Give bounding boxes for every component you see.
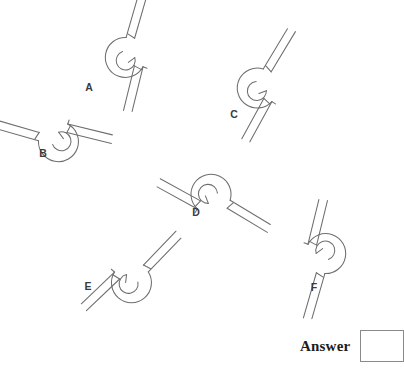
shape-c-stroke-3 (259, 91, 267, 94)
shape-a-stroke-5 (118, 0, 165, 38)
shape-c[interactable] (212, 26, 326, 144)
shape-c-stroke-1 (272, 101, 276, 105)
shape-b-stroke-0 (35, 120, 86, 169)
shape-b-stroke-3 (59, 132, 64, 139)
answer-row: Answer (300, 330, 404, 362)
shape-label-d: D (192, 206, 200, 218)
shape-label-a: A (85, 81, 93, 93)
shape-e[interactable] (81, 224, 182, 319)
shape-a-stroke-2 (112, 48, 138, 74)
shape-f-stroke-1 (304, 241, 308, 245)
shape-e-stroke-2 (118, 274, 139, 294)
shape-f-stroke-0 (304, 226, 353, 277)
shape-b-stroke-4 (0, 111, 38, 158)
shape-c-stroke-4 (253, 29, 297, 69)
shape-c-stroke-6 (266, 65, 271, 73)
shapes-group (0, 0, 378, 322)
shape-f-stroke-3 (316, 249, 323, 254)
shape-f-stroke-5 (286, 273, 333, 318)
shape-f[interactable] (253, 196, 378, 322)
shape-f-stroke-4 (295, 274, 342, 319)
shape-d-stroke-5 (227, 198, 267, 242)
shape-a-stroke-8 (106, 66, 152, 111)
answer-box[interactable] (360, 330, 404, 362)
shape-label-f: F (311, 281, 318, 293)
shape-b-stroke-8 (67, 115, 112, 161)
shape-a-stroke-1 (143, 65, 147, 69)
shape-d-stroke-6 (226, 203, 234, 208)
shape-f-stroke-8 (299, 201, 345, 246)
shape-a-stroke-4 (109, 0, 156, 37)
shape-label-b: B (39, 147, 47, 159)
shape-a-stroke-6 (128, 32, 135, 40)
shape-labels-group: ABCDEF (39, 81, 318, 293)
shape-a[interactable] (73, 0, 198, 115)
shape-label-e: E (84, 280, 91, 292)
shape-label-c: C (230, 108, 238, 120)
shape-f-stroke-6 (316, 271, 323, 279)
shape-d-stroke-3 (205, 196, 208, 204)
shape-d[interactable] (155, 149, 273, 263)
shape-e-stroke-9 (113, 275, 120, 279)
shape-f-stroke-2 (312, 237, 338, 263)
shape-e-stroke-3 (126, 275, 127, 283)
shape-d-stroke-4 (230, 190, 270, 234)
shape-b-stroke-1 (66, 120, 70, 124)
shape-b-stroke-6 (33, 132, 41, 139)
shape-e-stroke-0 (110, 269, 153, 304)
shape-a-stroke-3 (128, 58, 135, 63)
shape-b-stroke-2 (49, 128, 75, 154)
answer-label: Answer (300, 338, 350, 355)
shape-e-stroke-1 (111, 269, 115, 272)
shape-b-stroke-5 (0, 102, 39, 149)
shape-c-stroke-5 (261, 32, 305, 72)
shape-a-stroke-0 (97, 34, 146, 85)
shape-e-stroke-6 (143, 265, 151, 269)
shape-b[interactable] (0, 69, 116, 194)
